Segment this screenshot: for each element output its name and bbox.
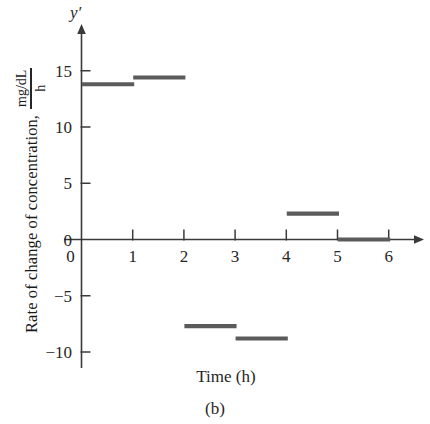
x-tick-label: 1 — [128, 248, 137, 265]
figure-container: Rate of change of concentration, mg/dL h… — [0, 0, 430, 424]
y-tick-label: 10 — [38, 119, 72, 136]
y-axis-unit-numerator: mg/dL — [14, 68, 30, 109]
x-axis-title: Time (h) — [196, 368, 255, 385]
step-function-segments — [82, 78, 390, 339]
x-axis-arrowhead — [414, 235, 424, 244]
y-tick-label: 0 — [38, 231, 72, 248]
y-tick-label: 5 — [38, 175, 72, 192]
y-axis-arrowhead — [77, 24, 86, 34]
x-tick-label: 2 — [180, 248, 189, 265]
x-tick-label: 0 — [66, 248, 75, 265]
y-tick-label: −5 — [38, 287, 72, 304]
x-tick-label: 5 — [333, 248, 342, 265]
y-axis — [77, 24, 86, 368]
x-tick-label: 6 — [384, 248, 393, 265]
x-tick-label: 4 — [282, 248, 291, 265]
y-prime-symbol: y′ — [70, 4, 81, 21]
y-tick-label: 15 — [38, 62, 72, 79]
y-tick-label: −10 — [38, 344, 72, 361]
y-axis-unit-denominator: h — [32, 83, 48, 94]
figure-caption: (b) — [205, 400, 225, 417]
x-tick-label: 3 — [231, 248, 240, 265]
